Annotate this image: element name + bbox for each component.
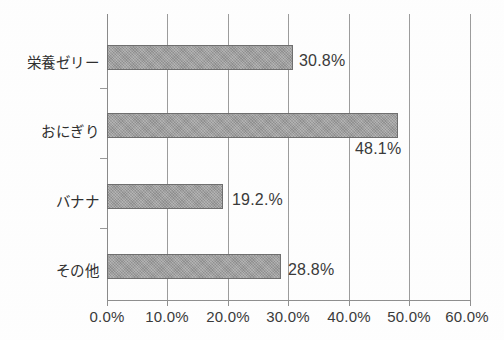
bar-0: [107, 45, 293, 70]
category-label-1: おにぎり: [0, 120, 99, 141]
bar-1: [107, 113, 398, 138]
gridline-50: [409, 14, 410, 300]
y-axis-tick: [100, 228, 107, 229]
x-axis-tick: [349, 300, 350, 306]
x-axis-tick: [167, 300, 168, 306]
value-label-3: 28.8%: [288, 261, 334, 279]
x-axis-label-0: 0.0%: [90, 308, 125, 325]
y-axis-tick: [100, 158, 107, 159]
value-label-0: 30.8%: [299, 52, 345, 70]
category-label-0: 栄養ゼリー: [0, 51, 99, 72]
bar-2: [107, 184, 223, 209]
bar-chart: 栄養ゼリー おにぎり バナナ その他 30.8% 48.1% 19.2.% 28…: [0, 0, 504, 340]
x-axis-label-4: 40.0%: [327, 308, 371, 325]
x-axis-tick: [288, 300, 289, 306]
x-axis-tick: [470, 300, 471, 306]
plot-area: [107, 14, 470, 300]
category-label-3: その他: [0, 259, 99, 280]
value-label-1: 48.1%: [355, 140, 401, 158]
x-axis-line: [107, 300, 471, 301]
gridline-60: [470, 14, 471, 300]
y-axis-tick: [100, 88, 107, 89]
gridline-40: [349, 14, 350, 300]
x-axis-tick: [107, 300, 108, 306]
x-axis-label-2: 20.0%: [206, 308, 250, 325]
x-axis-label-6: 60.0%: [445, 308, 489, 325]
x-axis-label-5: 50.0%: [387, 308, 431, 325]
x-axis-tick: [228, 300, 229, 306]
value-label-2: 19.2.%: [232, 191, 283, 209]
category-label-2: バナナ: [0, 190, 99, 211]
x-axis-tick: [409, 300, 410, 306]
x-axis-label-1: 10.0%: [145, 308, 189, 325]
bar-3: [107, 254, 281, 279]
x-axis-label-3: 30.0%: [266, 308, 310, 325]
